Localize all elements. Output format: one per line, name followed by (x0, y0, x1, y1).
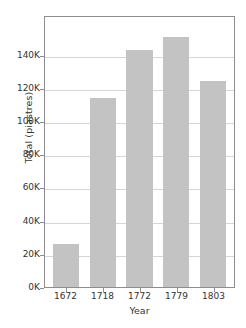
y-tick-label: 40K (4, 216, 40, 226)
y-tick-label: 100K (4, 116, 40, 126)
x-tick-label: 1803 (195, 291, 232, 301)
bar-1803 (200, 81, 226, 287)
bar-slot (158, 17, 195, 287)
bar-chart-figure: Total (piastres) 0K20K40K60K80K100K120K1… (0, 0, 246, 328)
y-tick-label: 80K (4, 149, 40, 159)
bar-1779 (163, 37, 189, 287)
y-tick-label: 60K (4, 182, 40, 192)
bar-1718 (90, 98, 116, 287)
x-tick-label: 1772 (121, 291, 158, 301)
bar-slot (194, 17, 231, 287)
x-tick-label: 1718 (84, 291, 121, 301)
bar-slot (121, 17, 158, 287)
x-axis-tick-labels: 16721718177217791803 (44, 291, 235, 301)
bar-1772 (126, 50, 152, 287)
y-axis-tick-labels: 0K20K40K60K80K100K120K140K (0, 0, 40, 328)
x-axis-title: Year (44, 305, 235, 316)
y-tick-label: 140K (4, 50, 40, 60)
x-tick-label: 1779 (158, 291, 195, 301)
bar-slot (85, 17, 122, 287)
plot-area (44, 16, 235, 288)
y-tick-label: 0K (4, 282, 40, 292)
bar-slot (48, 17, 85, 287)
x-tick-label: 1672 (47, 291, 84, 301)
y-tick-label: 20K (4, 249, 40, 259)
bar-1672 (53, 244, 79, 287)
bar-series (45, 17, 234, 287)
y-tick-label: 120K (4, 83, 40, 93)
